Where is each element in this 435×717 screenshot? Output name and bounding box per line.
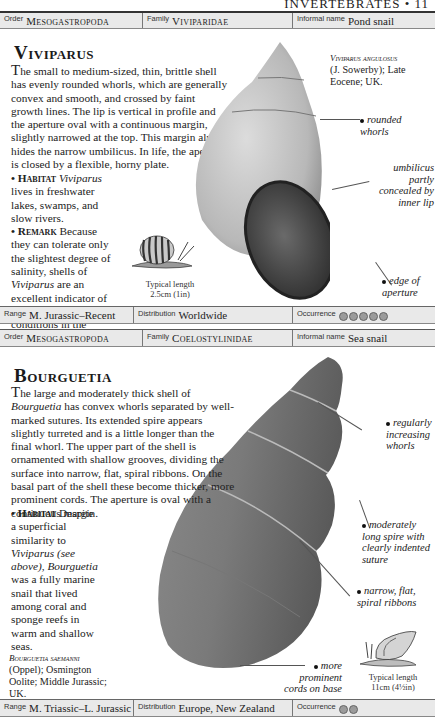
entry-2-specimen-caption: Bourguetia saemanni (Oppel); Osmington O…	[9, 652, 109, 700]
habitat-label: • Habitat	[11, 172, 56, 184]
annotation-text: edge of aperture	[382, 275, 420, 298]
annotation-prominent-cords: more prominent cords on base	[280, 660, 342, 695]
entry-2-description: The large and moderately thick shell of …	[11, 386, 237, 520]
viviparus-shell-image	[190, 40, 330, 305]
annotation-regularly-increasing-whorls: regularly increasing whorls	[386, 417, 434, 452]
description-part: The large and moderately thick shell of	[11, 387, 191, 399]
entry-2-header-bar: Order Mesogastropoda Family Coelostylini…	[0, 329, 435, 347]
order-label: Order	[4, 14, 23, 23]
distribution-label: Distribution	[138, 309, 176, 318]
habitat-reference: Viviparus (see above), Bourguetia	[11, 547, 98, 572]
occurrence-dot-icon	[349, 312, 358, 321]
range-value: M. Jurassic–Recent	[29, 309, 115, 321]
entry-1-footer-bar: Range M. Jurassic–Recent Distribution Wo…	[0, 306, 435, 324]
description-part: has convex whorls separated by well-mark…	[11, 400, 234, 518]
order-cell: Order Mesogastropoda	[0, 13, 143, 28]
bullet-dot-icon	[314, 665, 318, 669]
specimen-detail: (Oppel); Osmington Oolite; Middle Jurass…	[9, 664, 109, 700]
family-label: Family	[147, 14, 169, 23]
specimen-name: Viviparus angulosus	[330, 52, 430, 64]
occurrence-dot-icon	[379, 312, 388, 321]
family-value: Coelostylinidae	[172, 332, 253, 344]
habitat-text: lives in freshwater lakes, swamps, and s…	[11, 185, 98, 224]
bullet-dot-icon	[382, 280, 386, 284]
description-genus: Bourguetia	[11, 400, 61, 412]
family-value: Viviparidae	[172, 15, 228, 27]
range-cell: Range M. Triassic–L. Jurassic	[0, 700, 134, 716]
occurrence-dot-icon	[369, 312, 378, 321]
annotation-text: more prominent cords on base	[284, 660, 342, 694]
occurrence-rating	[339, 312, 388, 321]
order-value: Mesogastropoda	[26, 15, 109, 27]
occurrence-dot-icon	[349, 705, 358, 714]
habitat-paragraph: • Habitat Despite a superficial similari…	[11, 507, 99, 653]
bullet-dot-icon	[360, 119, 364, 123]
order-value: Mesogastropoda	[26, 332, 109, 344]
order-label: Order	[4, 332, 23, 341]
typical-length-label: Typical length	[358, 672, 428, 682]
annotation-umbilicus: umbilicus partly concealed by inner lip	[366, 162, 434, 208]
entry-1-header-bar: Order Mesogastropoda Family Viviparidae …	[0, 11, 435, 29]
habitat-paragraph: • Habitat Viviparus lives in freshwater …	[11, 172, 121, 225]
bullet-dot-icon	[362, 524, 366, 528]
entry-1-title: Viviparus	[14, 42, 94, 64]
remark-paragraph: • Remark Because they can tolerate only …	[11, 225, 111, 345]
habitat-label: • Habitat	[11, 507, 56, 519]
entry-2-habitat: • Habitat Despite a superficial similari…	[11, 507, 99, 653]
distribution-value: Europe, New Zealand	[179, 702, 275, 714]
informal-name-value: Sea snail	[348, 332, 387, 344]
order-cell: Order Mesogastropoda	[0, 330, 143, 346]
occurrence-label: Occurrence	[297, 309, 336, 318]
family-cell: Family Coelostylinidae	[143, 330, 293, 346]
occurrence-dot-icon	[339, 705, 348, 714]
specimen-name: Bourguetia saemanni	[9, 652, 109, 664]
informal-name-cell: Informal name Sea snail	[293, 330, 435, 346]
annotation-moderately-long-spire: moderately long spire with clearly inden…	[362, 519, 434, 565]
annotation-text: narrow, flat, spiral ribbons	[357, 585, 416, 608]
range-label: Range	[4, 702, 26, 711]
habitat-genus: Viviparus	[59, 172, 102, 184]
remark-label: • Remark	[11, 225, 57, 237]
informal-name-value: Pond snail	[348, 15, 394, 27]
distribution-cell: Distribution Europe, New Zealand	[134, 700, 293, 716]
distribution-label: Distribution	[138, 702, 176, 711]
annotation-text: rounded whorls	[360, 114, 402, 137]
leader-line	[320, 119, 360, 120]
informal-name-label: Informal name	[297, 332, 345, 341]
occurrence-cell: Occurrence	[293, 307, 435, 323]
informal-name-cell: Informal name Pond snail	[293, 13, 435, 28]
family-label: Family	[147, 332, 169, 341]
range-label: Range	[4, 309, 26, 318]
range-value: M. Triassic–L. Jurassic	[29, 702, 131, 714]
occurrence-cell: Occurrence	[293, 700, 435, 716]
occurrence-rating	[339, 705, 358, 714]
range-cell: Range M. Jurassic–Recent	[0, 307, 134, 323]
remark-genus: Viviparus	[11, 278, 54, 290]
bullet-dot-icon	[386, 422, 390, 426]
entry-1-specimen-caption: Viviparus angulosus (J. Sowerby); Late E…	[330, 52, 430, 88]
description-text: The large and moderately thick shell of …	[11, 386, 237, 520]
informal-name-label: Informal name	[297, 14, 345, 23]
annotation-text: umbilicus partly concealed by inner lip	[379, 162, 434, 208]
annotation-text: moderately long spire with clearly inden…	[362, 519, 430, 565]
distribution-cell: Distribution Worldwide	[134, 307, 293, 323]
entry-2-footer-bar: Range M. Triassic–L. Jurassic Distributi…	[0, 699, 435, 717]
entry-2-typical-length: Typical length 11cm (4½in)	[358, 672, 428, 692]
occurrence-dot-icon	[359, 312, 368, 321]
annotation-edge-of-aperture: edge of aperture	[382, 275, 434, 298]
entry-2-title: Bourguetia	[14, 365, 112, 387]
annotation-spiral-ribbons: narrow, flat, spiral ribbons	[357, 585, 435, 608]
occurrence-label: Occurrence	[297, 702, 336, 711]
distribution-value: Worldwide	[179, 309, 228, 321]
leader-line	[332, 181, 369, 190]
annotation-text: regularly increasing whorls	[386, 417, 432, 451]
specimen-detail: (J. Sowerby); Late Eocene; UK.	[330, 64, 430, 88]
snail-illustration-icon	[358, 628, 420, 668]
habitat-text-2: was a fully marine snail that lived amon…	[11, 573, 95, 651]
annotation-rounded-whorls: rounded whorls	[360, 114, 430, 137]
bullet-dot-icon	[357, 590, 361, 594]
family-cell: Family Viviparidae	[143, 13, 293, 28]
occurrence-dot-icon	[339, 312, 348, 321]
typical-length-value: 11cm (4½in)	[358, 682, 428, 692]
